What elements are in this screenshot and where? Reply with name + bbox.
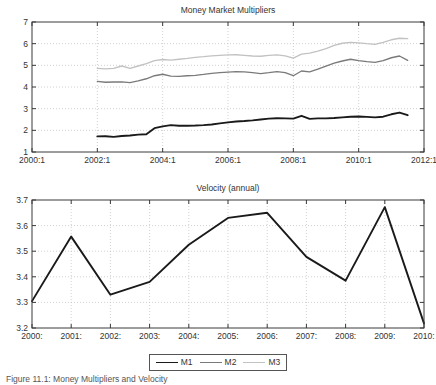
x-tick-label: 2000:1	[19, 155, 45, 165]
x-tick-label: 2010:1	[346, 155, 372, 165]
money-market-multipliers-chart: Money Market Multipliers12345672000:1200…	[0, 0, 436, 178]
series-line-m1	[97, 113, 407, 137]
legend-item-m2[interactable]: M2	[200, 358, 237, 367]
y-tick-label: 6	[23, 39, 28, 49]
x-tick-label: 2006:1	[215, 155, 241, 165]
y-tick-label: 4	[23, 82, 28, 92]
legend: M1 M2 M3	[0, 352, 436, 372]
y-tick-label: 2	[23, 125, 28, 135]
y-tick-label: 5	[23, 60, 28, 70]
legend-box: M1 M2 M3	[149, 354, 287, 371]
legend-item-m3[interactable]: M3	[243, 358, 280, 367]
y-tick-label: 3.4	[16, 272, 28, 282]
series-line-m2	[97, 56, 407, 83]
y-tick-label: 3.5	[16, 246, 28, 256]
chart-title: Money Market Multipliers	[181, 5, 275, 15]
x-tick-label: 2004:	[178, 331, 199, 341]
legend-swatch-m2	[200, 362, 222, 363]
x-tick-label: 2000:	[21, 331, 42, 341]
velocity-annual-svg: Velocity (annual)3.23.33.43.53.63.72000:…	[0, 180, 436, 355]
money-market-multipliers-svg: Money Market Multipliers12345672000:1200…	[0, 0, 436, 178]
x-tick-label: 2008:	[335, 331, 356, 341]
x-tick-label: 2009:	[374, 331, 395, 341]
x-tick-label: 2002:	[100, 331, 121, 341]
x-tick-label: 2001:	[61, 331, 82, 341]
legend-label-m3: M3	[268, 358, 280, 367]
x-tick-label: 2010:	[413, 331, 434, 341]
x-tick-label: 2005:	[217, 331, 238, 341]
x-tick-label: 2007:	[296, 331, 317, 341]
x-tick-label: 2008:1	[280, 155, 306, 165]
legend-item-m1[interactable]: M1	[156, 358, 193, 367]
x-tick-label: 2003:	[139, 331, 160, 341]
legend-swatch-m3	[243, 362, 265, 363]
legend-swatch-m1	[156, 362, 178, 363]
x-tick-label: 2002:1	[84, 155, 110, 165]
x-tick-label: 2006:	[257, 331, 278, 341]
y-tick-label: 3	[23, 104, 28, 114]
y-tick-label: 3.6	[16, 221, 28, 231]
figure-container: Money Market Multipliers12345672000:1200…	[0, 0, 436, 385]
chart-title: Velocity (annual)	[197, 183, 260, 193]
y-tick-label: 3.3	[16, 297, 28, 307]
legend-label-m2: M2	[225, 358, 237, 367]
y-tick-label: 3.7	[16, 195, 28, 205]
series-line-m3	[97, 38, 407, 69]
x-tick-label: 2012:1	[411, 155, 436, 165]
x-tick-label: 2004:1	[150, 155, 176, 165]
legend-label-m1: M1	[181, 358, 193, 367]
y-tick-label: 7	[23, 17, 28, 27]
figure-caption: Figure 11.1: Money Multipliers and Veloc…	[6, 374, 430, 384]
velocity-annual-chart: Velocity (annual)3.23.33.43.53.63.72000:…	[0, 180, 436, 355]
